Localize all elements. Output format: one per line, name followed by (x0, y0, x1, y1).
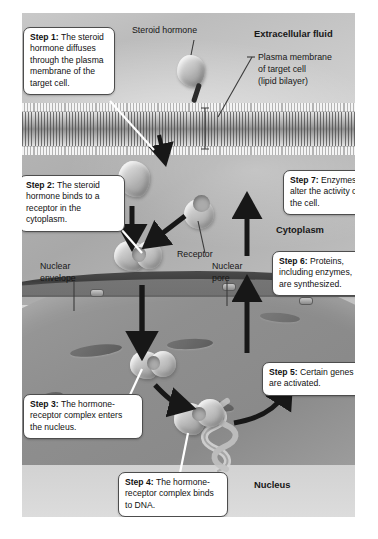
label-nuclear-pore-line1: Nuclear (212, 261, 242, 272)
callout-step4[interactable]: Step 4: The hormone-receptor complex bin… (118, 472, 228, 517)
step1-number: Step 1: (30, 32, 59, 42)
step4-number: Step 4: (125, 477, 154, 487)
callout-step6[interactable]: Step 6: Proteins, including enzymes, are… (272, 251, 355, 296)
label-steroid-hormone: Steroid hormone (132, 25, 197, 36)
callout-step3[interactable]: Step 3: The hormone-receptor complex ent… (23, 394, 143, 439)
step2-number: Step 2: (26, 180, 55, 190)
label-nuclear-envelope-line1: Nuclear (40, 261, 70, 272)
leader-plasma-membrane (218, 57, 252, 117)
leader-steroid-hormone (191, 40, 194, 55)
step6-number: Step 6: (279, 256, 308, 266)
label-cytoplasm: Cytoplasm (276, 224, 324, 236)
leader-step3 (130, 369, 142, 395)
leader-step4 (180, 433, 188, 473)
label-plasma-membrane-line3: (lipid bilayer) (258, 76, 308, 87)
label-extracellular-fluid: Extracellular fluid (254, 28, 333, 40)
label-receptor: Receptor (177, 249, 213, 260)
label-plasma-membrane-line2: of target cell (258, 64, 306, 75)
leader-step1 (110, 101, 154, 150)
callout-step2[interactable]: Step 2: The steroid hormone binds to a r… (22, 175, 125, 232)
step3-number: Step 3: (30, 399, 59, 409)
label-nucleus: Nucleus (254, 479, 290, 491)
diagram-canvas: Steroid hormone Extracellular fluid Plas… (0, 0, 378, 539)
cell-scene: Steroid hormone Extracellular fluid Plas… (22, 13, 355, 517)
membrane-thickness-bracket (201, 108, 209, 149)
label-nuclear-envelope-line2: envelope (40, 273, 76, 284)
callout-step5[interactable]: Step 5: Certain genes are activated. (262, 362, 355, 396)
callout-step7[interactable]: Step 7: Enzymes alter the activity of th… (283, 170, 355, 215)
step5-number: Step 5: (269, 367, 298, 377)
callout-step1[interactable]: Step 1: The steroid hormone diffuses thr… (23, 27, 115, 95)
label-plasma-membrane-line1: Plasma membrane (258, 52, 332, 63)
label-nuclear-pore-line2: pore (212, 273, 230, 284)
step7-number: Step 7: (290, 175, 319, 185)
